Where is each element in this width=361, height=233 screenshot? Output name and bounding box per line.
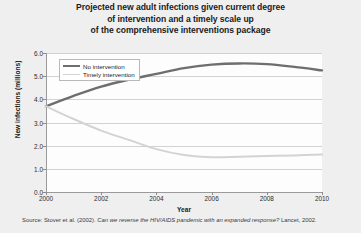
chart-title-line-1: Projected new adult infections given cur… xyxy=(0,2,361,14)
legend-swatch xyxy=(63,65,80,67)
source-suffix: Lancet, 2002. xyxy=(281,217,317,223)
x-axis-tick-mark xyxy=(322,192,323,195)
y-axis-title: New infections (millions) xyxy=(14,40,21,160)
legend-label: Timely intervention xyxy=(83,71,135,78)
x-axis-tick-label: 2008 xyxy=(247,195,287,202)
x-axis-tick-label: 2006 xyxy=(192,195,232,202)
legend-item-timely-intervention: Timely intervention xyxy=(63,70,135,78)
chart-figure: Projected new adult infections given cur… xyxy=(0,0,361,233)
legend-swatch xyxy=(63,74,80,75)
chart-title-line-2: of intervention and a timely scale up xyxy=(0,14,361,26)
series-line-timely-intervention xyxy=(46,106,322,157)
x-axis-tick-label: 2000 xyxy=(26,195,66,202)
x-axis-tick-mark xyxy=(267,192,268,195)
x-axis-title: Year xyxy=(46,206,322,213)
x-axis-tick-label: 2010 xyxy=(302,195,342,202)
x-axis-tick-label: 2002 xyxy=(81,195,121,202)
chart-title: Projected new adult infections given cur… xyxy=(0,2,361,37)
legend-label: No intervention xyxy=(83,63,125,70)
x-axis-line xyxy=(46,192,322,193)
y-axis-tick-marks xyxy=(0,53,46,192)
x-axis-tick-mark xyxy=(101,192,102,195)
legend-item-no-intervention: No intervention xyxy=(63,62,135,70)
x-axis-tick-mark xyxy=(46,192,47,195)
source-citation: Source: Stover et al. (2002). Can we rev… xyxy=(22,217,317,223)
x-axis-tick-mark xyxy=(156,192,157,195)
x-axis-tick-label: 2004 xyxy=(136,195,176,202)
chart-title-line-3: of the comprehensive interventions packa… xyxy=(0,25,361,37)
source-prefix: Source: Stover et al. (2002). xyxy=(22,217,96,223)
x-axis-tick-mark xyxy=(212,192,213,195)
source-title: Can we reverse the HIV/AIDS pandemic wit… xyxy=(97,217,279,223)
chart-legend: No interventionTimely intervention xyxy=(59,59,140,81)
